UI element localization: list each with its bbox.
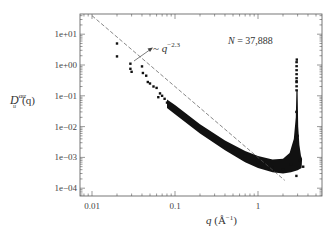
data-point — [161, 95, 163, 97]
data-point — [129, 68, 131, 70]
y-tick-label: 1e−03 — [54, 152, 77, 162]
data-point — [199, 128, 201, 130]
data-point — [295, 85, 298, 87]
data-point — [295, 81, 298, 83]
data-point — [159, 92, 161, 94]
data-point — [295, 61, 298, 63]
data-point — [141, 65, 143, 67]
data-point — [299, 159, 301, 161]
data-point — [116, 42, 118, 44]
y-axis-label: Dααu(q) — [9, 92, 35, 109]
data-point — [163, 98, 165, 100]
data-point — [295, 89, 298, 91]
data-point — [295, 175, 297, 177]
chart: 0.010.111e+011e+001e−011e−021e−031e−04 N… — [0, 0, 334, 239]
x-tick-label: 0.01 — [84, 201, 100, 211]
axis-tick-labels: 0.010.111e+011e+001e−011e−021e−031e−04 — [54, 29, 260, 211]
y-tick-label: 1e−02 — [54, 122, 77, 132]
data-point — [188, 120, 190, 122]
y-tick-label: 1e−04 — [54, 183, 77, 193]
power-law-label: ~ q−2.3 — [153, 41, 180, 54]
data-point — [294, 142, 296, 144]
data-point — [129, 63, 131, 65]
x-tick-label: 1 — [256, 201, 261, 211]
data-point — [170, 104, 172, 106]
data-point — [295, 77, 298, 79]
data-point — [157, 96, 159, 98]
data-point — [295, 73, 298, 75]
data-point — [147, 81, 149, 83]
y-tick-label: 1e+00 — [54, 60, 77, 70]
data-point — [149, 82, 151, 84]
data-point — [152, 85, 154, 87]
x-tick-label: 0.1 — [169, 201, 180, 211]
x-axis-label: q (Å−1) — [206, 214, 237, 227]
data-point — [232, 148, 234, 150]
data-point — [166, 101, 168, 103]
data-point — [295, 111, 297, 113]
data-point — [302, 166, 304, 168]
data-point — [174, 107, 176, 109]
n-annotation: N = 37,888 — [227, 35, 273, 46]
data-point — [296, 135, 298, 137]
data-point — [155, 87, 157, 89]
data-point — [295, 65, 298, 67]
data-point — [213, 138, 215, 140]
data-point — [244, 155, 246, 157]
y-tick-label: 1e−01 — [54, 91, 77, 101]
data-point — [145, 75, 147, 77]
data-point — [116, 55, 118, 57]
data-point — [142, 72, 144, 74]
data-point — [130, 71, 132, 73]
data-point — [290, 163, 292, 165]
data-point — [296, 58, 298, 60]
y-tick-label: 1e+01 — [54, 29, 77, 39]
data-point — [282, 169, 284, 171]
scatter-band — [167, 90, 302, 173]
data-point — [257, 161, 259, 163]
data-point — [295, 69, 298, 71]
